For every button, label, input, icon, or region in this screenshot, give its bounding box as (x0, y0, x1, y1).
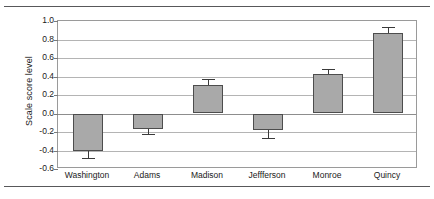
error-bar-cap (262, 138, 275, 139)
top-divider-rule (4, 6, 430, 7)
bar-group (238, 21, 298, 167)
x-tick-label: Monroe (313, 170, 342, 180)
y-tick-label: 0.2 (28, 89, 54, 99)
x-tick-label: Madison (191, 170, 223, 180)
bar (133, 114, 163, 130)
error-bar-cap (202, 79, 215, 80)
bar-chart-figure: Scale score level 1.00.80.60.40.20.0-0.2… (0, 0, 434, 199)
bar-group (178, 21, 238, 167)
error-bar-cap (142, 134, 155, 135)
bar (373, 33, 403, 113)
bar-group (58, 21, 118, 167)
x-tick-label: Adams (134, 170, 160, 180)
y-tick-label: 0.6 (28, 52, 54, 62)
error-bar-stem (268, 130, 269, 138)
y-tick-label: 0.4 (28, 71, 54, 81)
error-bar-stem (88, 151, 89, 158)
x-tick-label: Washington (65, 170, 110, 180)
bar-group (118, 21, 178, 167)
y-tick-label: -0.2 (28, 126, 54, 136)
y-tick-label: 0.0 (28, 108, 54, 118)
error-bar-cap (382, 27, 395, 28)
bottom-divider-rule (4, 186, 430, 187)
bars-layer (58, 21, 416, 167)
error-bar-cap (322, 69, 335, 70)
bar-group (298, 21, 358, 167)
y-tick-label: 0.8 (28, 34, 54, 44)
plot-area (57, 20, 417, 168)
bar-group (358, 21, 418, 167)
y-tick-label: -0.6 (28, 163, 54, 173)
y-tick-label: -0.4 (28, 145, 54, 155)
bar (313, 74, 343, 114)
x-tick-label: Quincy (374, 170, 400, 180)
y-axis-tick-labels: 1.00.80.60.40.20.0-0.2-0.4-0.6 (28, 20, 54, 168)
x-tick-label: Jeffferson (248, 170, 285, 180)
y-tick-label: 1.0 (28, 15, 54, 25)
bar (193, 85, 223, 114)
error-bar-cap (82, 158, 95, 159)
x-axis-tick-labels: WashingtonAdamsMadisonJefffersonMonroeQu… (57, 170, 417, 184)
bar (73, 114, 103, 151)
bar (253, 114, 283, 131)
